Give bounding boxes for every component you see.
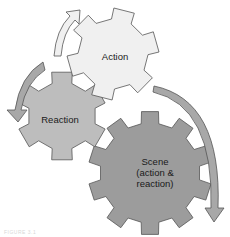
gear-diagram (0, 0, 230, 237)
scene-label: Scene (action & reaction) (136, 156, 174, 189)
scene-label-line2: (action & (136, 167, 174, 178)
action-label: Action (102, 51, 128, 62)
figure-caption: FIGURE 3.1 (4, 229, 36, 235)
scene-label-line1: Scene (136, 156, 174, 167)
scene-label-line3: reaction) (136, 178, 174, 189)
reaction-label: Reaction (41, 114, 79, 125)
